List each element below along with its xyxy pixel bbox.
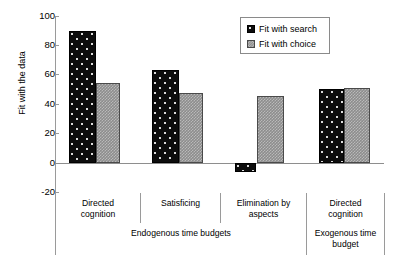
- legend-item-fit-with-choice: Fit with choice: [247, 37, 324, 51]
- category-line-1: Satisficing: [161, 198, 200, 209]
- bar-search-directed-cognition-exogenous: [319, 89, 344, 163]
- legend-swatch-choice-icon: [247, 40, 255, 48]
- group-line-2: budget: [315, 239, 377, 250]
- group-label-endogenous-time-budgets: Endogenous time budgets: [55, 223, 306, 255]
- category-label-directed-cognition-exogenous: Directed cognition: [306, 193, 385, 223]
- legend-item-fit-with-search: Fit with search: [247, 22, 324, 36]
- y-tick-label: 60: [27, 69, 55, 79]
- legend-swatch-search-icon: [247, 25, 255, 33]
- y-tick-label: 0: [27, 158, 55, 168]
- bar-search-satisficing: [152, 70, 179, 163]
- bar-choice-directed-cognition-endogenous: [96, 83, 120, 163]
- category-line-1: Directed: [81, 198, 115, 209]
- legend: Fit with search Fit with choice: [240, 17, 330, 54]
- y-tick-label: 80: [27, 40, 55, 50]
- category-line-2: aspects: [237, 209, 291, 220]
- group-line-1: Endogenous time budgets: [131, 228, 231, 239]
- category-line-1: Elimination by: [237, 198, 291, 209]
- bar-chart: Fit with the data 100 80 60 40 20 0 -20: [0, 0, 398, 279]
- y-tick-40: 40: [18, 99, 55, 109]
- y-tick-60: 60: [18, 69, 55, 79]
- y-tick-label: 100: [27, 11, 55, 21]
- y-tick-label: 20: [27, 128, 55, 138]
- group-label-exogenous-time-budget: Exogenous time budget: [306, 223, 385, 255]
- y-tick-80: 80: [18, 40, 55, 50]
- category-line-2: cognition: [81, 209, 115, 220]
- y-tick-label: 40: [27, 99, 55, 109]
- category-line-2: cognition: [328, 209, 362, 220]
- group-line-1: Exogenous time: [315, 228, 377, 239]
- legend-label: Fit with choice: [259, 39, 316, 49]
- bar-choice-elimination-by-aspects: [257, 96, 284, 163]
- y-tick-label: -20: [27, 187, 55, 197]
- category-axis: Directed cognition Satisficing Eliminati…: [55, 193, 385, 279]
- y-tick-100: 100: [18, 11, 55, 21]
- bar-search-elimination-by-aspects: [235, 163, 256, 172]
- category-label-satisficing: Satisficing: [140, 193, 220, 223]
- y-tick-minus20: -20: [18, 187, 55, 197]
- bar-choice-satisficing: [179, 93, 203, 163]
- y-tick-0: 0: [18, 158, 55, 168]
- legend-label: Fit with search: [259, 24, 317, 34]
- y-tick-20: 20: [18, 128, 55, 138]
- category-label-directed-cognition-endogenous: Directed cognition: [55, 193, 140, 223]
- category-line-1: Directed: [328, 198, 362, 209]
- bar-choice-directed-cognition-exogenous: [344, 88, 370, 163]
- plot-area: [56, 16, 384, 193]
- bar-search-directed-cognition-endogenous: [69, 31, 96, 163]
- category-label-elimination-by-aspects: Elimination by aspects: [220, 193, 306, 223]
